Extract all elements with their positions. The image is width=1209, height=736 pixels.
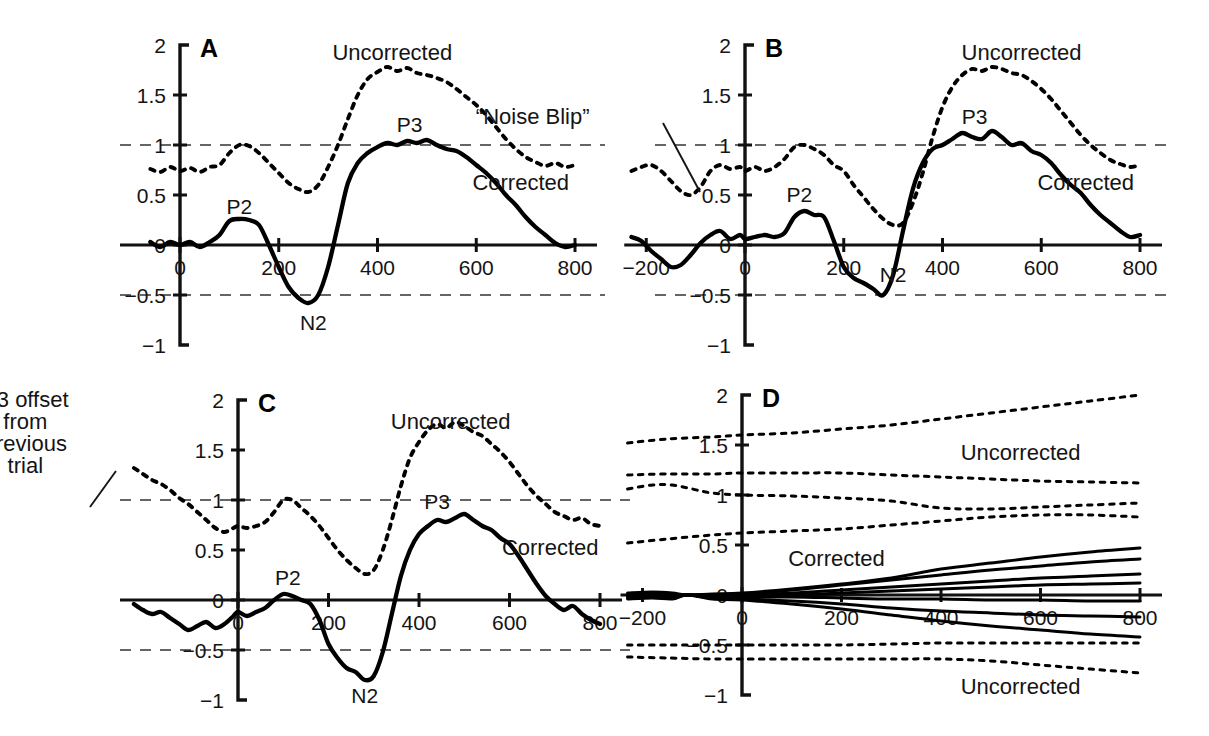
p3-offset-leader: [90, 471, 116, 507]
y-tick-label: 1.5: [137, 84, 166, 107]
x-tick-label: 0: [739, 256, 751, 279]
y-tick-label: −1: [200, 689, 224, 712]
panel-a: −1−0.500.511.520200400600800AUncorrected…: [120, 34, 605, 357]
annotation-trial: trial: [8, 453, 43, 478]
y-tick-label: 0.5: [195, 539, 224, 562]
x-tick-label: 400: [401, 611, 436, 634]
y-tick-label: −1: [142, 334, 166, 357]
annotation-corrected: Corrected: [788, 546, 885, 571]
x-tick-label: 400: [360, 256, 395, 279]
x-tick-label: 600: [1024, 256, 1059, 279]
annotation-p2: P2: [275, 566, 301, 589]
annotation-corrected: Corrected: [502, 535, 599, 560]
y-tick-label: −0.5: [125, 284, 166, 307]
y-tick-label: 1.5: [195, 439, 224, 462]
annotation-p3: P3: [962, 105, 988, 128]
annotation-p3: P3: [424, 490, 450, 513]
y-tick-label: 0.5: [699, 534, 728, 557]
annotation-p3: P3: [397, 113, 423, 136]
panel-letter-a: A: [200, 34, 218, 62]
annotation-uncorrected: Uncorrected: [391, 409, 511, 434]
y-tick-label: −1: [704, 684, 728, 707]
annotation-n2: N2: [300, 311, 327, 334]
panel-d: −1−0.500.511.52−2000200400600800DUncorre…: [619, 384, 1162, 707]
annotation-n2: N2: [351, 684, 378, 707]
annotation-uncorrected: Uncorrected: [961, 674, 1081, 699]
annotation-uncorrected: Uncorrected: [961, 440, 1081, 465]
panel-letter-b: B: [765, 34, 783, 62]
y-tick-label: 1: [719, 134, 731, 157]
figure-canvas: −1−0.500.511.520200400600800AUncorrected…: [0, 0, 1209, 736]
annotation-p2: P2: [226, 195, 252, 218]
annotation-noise-blip: “Noise Blip”: [476, 104, 590, 129]
erp-figure: −1−0.500.511.520200400600800AUncorrected…: [0, 0, 1209, 736]
panel-letter-d: D: [762, 384, 780, 412]
y-tick-label: 1: [212, 489, 224, 512]
x-tick-label: 0: [736, 606, 748, 629]
annotation-uncorrected: Uncorrected: [332, 40, 452, 65]
x-tick-label: 800: [1122, 256, 1157, 279]
panel-letter-c: C: [258, 389, 276, 417]
y-tick-label: 0.5: [137, 184, 166, 207]
x-tick-label: 400: [925, 256, 960, 279]
y-tick-label: 1: [154, 134, 166, 157]
trace-uncorrected-fan-6: [628, 657, 1140, 673]
x-tick-label: 600: [1023, 606, 1058, 629]
noise-blip-leader: [663, 123, 700, 192]
annotation-corrected: Corrected: [472, 170, 569, 195]
panel-c: −1−0.500.511.520200400600800CUncorrected…: [0, 387, 630, 712]
annotation-n2: N2: [880, 263, 907, 286]
y-tick-label: 2: [719, 34, 731, 57]
x-tick-label: 0: [174, 256, 186, 279]
y-tick-label: −1: [707, 334, 731, 357]
y-tick-label: −0.5: [690, 284, 731, 307]
x-tick-label: 600: [459, 256, 494, 279]
y-tick-label: 2: [716, 384, 728, 407]
trace-uncorrected-fan-3: [628, 484, 1140, 509]
annotation-corrected: Corrected: [1037, 170, 1134, 195]
annotation-p2: P2: [786, 183, 812, 206]
annotation-uncorrected: Uncorrected: [962, 40, 1082, 65]
trace-uncorrected-fan-2: [628, 473, 1140, 483]
panel-b: −1−0.500.511.52−2000200400600800BUncorre…: [476, 34, 1170, 357]
y-tick-label: 2: [154, 34, 166, 57]
x-tick-label: 800: [557, 256, 592, 279]
y-tick-label: 2: [212, 389, 224, 412]
y-tick-label: 1.5: [702, 84, 731, 107]
y-tick-label: −0.5: [183, 639, 224, 662]
x-tick-label: 600: [492, 611, 527, 634]
y-tick-label: 0.5: [702, 184, 731, 207]
x-tick-label: −200: [619, 606, 666, 629]
